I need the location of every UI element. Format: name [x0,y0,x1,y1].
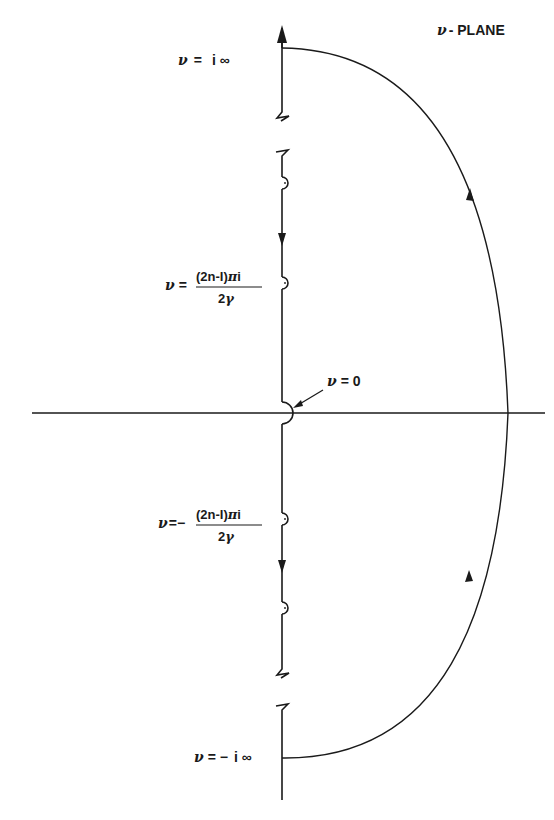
svg-text:ν=−: ν=− [158,515,185,531]
svg-text:(2n-I)πi: (2n-I)πi [196,269,241,284]
svg-text:(2n-I)πi: (2n-I)πi [196,507,241,522]
svg-text:2γ: 2γ [218,291,235,306]
semicircle-arrow-upper [466,188,474,201]
pole-markers [284,182,286,609]
label-nu-minus-i-infinity: ν= −i ∞ [194,749,252,765]
label-positive-pole: ν= (2n-I)πi 2γ [165,269,262,306]
svg-text:ν=: ν= [165,277,187,293]
label-negative-pole: ν=− (2n-I)πi 2γ [158,507,262,544]
imaginary-axis-upper [276,43,293,800]
direction-arrow-lower [278,560,286,573]
nu-plane-diagram: ν- PLANE ν=i ∞ ν= (2n-I)πi 2γ ν= 0 ν=− (… [0,0,554,820]
label-nu-zero: ν= 0 [327,373,361,389]
closing-semicircle [282,48,508,758]
svg-text:2γ: 2γ [218,529,235,544]
direction-arrow-upper [278,233,286,246]
semicircle-arrow-lower [465,570,473,582]
origin-pointer [293,390,323,408]
plane-title: ν- PLANE [437,22,505,38]
label-nu-i-infinity: ν=i ∞ [178,52,230,68]
